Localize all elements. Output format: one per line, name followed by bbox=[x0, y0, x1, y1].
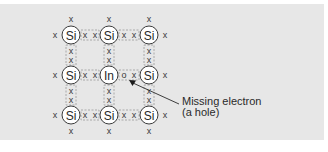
electron: x bbox=[132, 110, 137, 120]
arrowhead-icon bbox=[129, 80, 136, 86]
electron: x bbox=[83, 110, 88, 120]
electron: x bbox=[132, 30, 137, 40]
electron: x bbox=[147, 55, 152, 65]
electron: x bbox=[107, 14, 112, 24]
electron: x bbox=[53, 110, 58, 120]
electron: x bbox=[107, 55, 112, 65]
electron: x bbox=[69, 126, 74, 136]
atom-label: Si bbox=[66, 109, 77, 123]
atom-label: Si bbox=[66, 69, 77, 83]
atom-label: Si bbox=[104, 109, 115, 123]
callout-arrow-line bbox=[133, 83, 179, 104]
electron: x bbox=[147, 14, 152, 24]
electron: x bbox=[53, 70, 58, 80]
electron: x bbox=[83, 30, 88, 40]
atom-label: Si bbox=[66, 29, 77, 43]
electron: x bbox=[122, 110, 127, 120]
atom-label: Si bbox=[144, 29, 155, 43]
atom-label: In bbox=[104, 69, 114, 83]
electron: x bbox=[147, 95, 152, 105]
electron: x bbox=[53, 30, 58, 40]
atom-label: Si bbox=[104, 29, 115, 43]
atom-label: Si bbox=[144, 69, 155, 83]
electron: x bbox=[122, 30, 127, 40]
electron: x bbox=[132, 70, 137, 80]
electron: x bbox=[163, 70, 168, 80]
electron: x bbox=[107, 126, 112, 136]
callout-line-2: (a hole) bbox=[182, 107, 261, 118]
electron: x bbox=[69, 55, 74, 65]
electron: x bbox=[69, 95, 74, 105]
electron: x bbox=[147, 126, 152, 136]
electron: x bbox=[69, 14, 74, 24]
electron: x bbox=[93, 110, 98, 120]
electron: x bbox=[93, 70, 98, 80]
electron: x bbox=[163, 110, 168, 120]
lattice-diagram: xxxxxxoxxxxxxxxxxxxxxxxxxxxxxxxxxxxxSiSi… bbox=[0, 0, 328, 152]
hole-callout: Missing electron (a hole) bbox=[182, 96, 261, 118]
electron: x bbox=[163, 30, 168, 40]
atom-label: Si bbox=[144, 109, 155, 123]
hole-symbol: o bbox=[121, 70, 126, 80]
electron: x bbox=[107, 95, 112, 105]
electron: x bbox=[93, 30, 98, 40]
electron: x bbox=[83, 70, 88, 80]
